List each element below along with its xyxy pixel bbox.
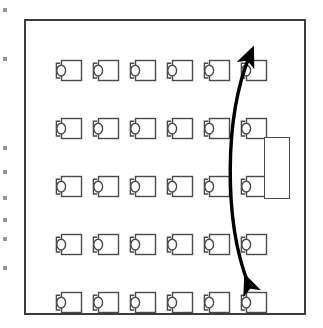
desk-chair-icon: [90, 173, 122, 201]
desk-chair-icon: [90, 115, 122, 143]
page-edge-fragment: [3, 146, 7, 150]
seating-grid: [26, 21, 304, 313]
chair-seat: [131, 65, 140, 76]
chair-seat: [168, 65, 177, 76]
chair-seat: [57, 181, 66, 192]
desk-chair-icon: [164, 57, 196, 85]
desk-chair-icon: [164, 173, 196, 201]
desk-chair-icon: [127, 289, 159, 317]
seat-row: [26, 57, 304, 85]
chair-seat: [205, 297, 214, 308]
desk-chair-icon: [238, 231, 270, 259]
chair-seat: [168, 123, 177, 134]
page-edge-fragment: [3, 237, 7, 241]
chair-seat: [131, 297, 140, 308]
seat-4-1[interactable]: [53, 231, 85, 259]
desk-chair-icon: [164, 289, 196, 317]
chair-seat: [94, 181, 103, 192]
seat-1-3[interactable]: [127, 57, 159, 85]
seat-4-3[interactable]: [127, 231, 159, 259]
seat-3-2[interactable]: [90, 173, 122, 201]
chair-seat: [94, 123, 103, 134]
desk-chair-icon: [127, 115, 159, 143]
room-outline: [24, 19, 306, 315]
seat-1-4[interactable]: [164, 57, 196, 85]
seat-4-5[interactable]: [201, 231, 233, 259]
seat-1-1[interactable]: [53, 57, 85, 85]
seat-5-5[interactable]: [201, 289, 233, 317]
seat-1-5[interactable]: [201, 57, 233, 85]
desk-chair-icon: [90, 57, 122, 85]
desk-chair-icon: [164, 231, 196, 259]
desk-chair-icon: [201, 115, 233, 143]
chair-seat: [242, 123, 251, 134]
desk-chair-icon: [127, 57, 159, 85]
seat-5-3[interactable]: [127, 289, 159, 317]
desk-chair-icon: [238, 289, 270, 317]
seat-2-2[interactable]: [90, 115, 122, 143]
desk-chair-icon: [164, 115, 196, 143]
desk-chair-icon: [53, 173, 85, 201]
lectern[interactable]: [264, 137, 290, 199]
desk-chair-icon: [201, 173, 233, 201]
chair-seat: [242, 65, 251, 76]
page-edge-fragment: [3, 57, 7, 61]
desk-chair-icon: [90, 231, 122, 259]
seat-row: [26, 289, 304, 317]
seat-2-1[interactable]: [53, 115, 85, 143]
page-edge-fragments: [0, 0, 16, 328]
page-edge-fragment: [3, 218, 7, 222]
chair-seat: [242, 297, 251, 308]
seat-5-6[interactable]: [238, 289, 270, 317]
seat-row: [26, 231, 304, 259]
chair-seat: [131, 181, 140, 192]
seat-row: [26, 173, 304, 201]
seat-row: [26, 115, 304, 143]
seat-3-1[interactable]: [53, 173, 85, 201]
chair-seat: [205, 123, 214, 134]
chair-seat: [205, 239, 214, 250]
desk-chair-icon: [201, 289, 233, 317]
chair-seat: [168, 181, 177, 192]
desk-chair-icon: [127, 173, 159, 201]
seat-3-5[interactable]: [201, 173, 233, 201]
page-edge-fragment: [3, 170, 7, 174]
diagram-canvas: [0, 0, 323, 328]
seat-2-3[interactable]: [127, 115, 159, 143]
seat-4-4[interactable]: [164, 231, 196, 259]
desk-chair-icon: [53, 115, 85, 143]
seat-5-1[interactable]: [53, 289, 85, 317]
chair-seat: [57, 65, 66, 76]
chair-seat: [131, 239, 140, 250]
seat-5-2[interactable]: [90, 289, 122, 317]
seat-1-6[interactable]: [238, 57, 270, 85]
chair-seat: [94, 239, 103, 250]
page-edge-fragment: [3, 266, 7, 270]
chair-seat: [57, 297, 66, 308]
seat-1-2[interactable]: [90, 57, 122, 85]
desk-chair-icon: [238, 57, 270, 85]
chair-seat: [57, 123, 66, 134]
desk-chair-icon: [90, 289, 122, 317]
chair-seat: [168, 297, 177, 308]
chair-seat: [131, 123, 140, 134]
desk-chair-icon: [53, 231, 85, 259]
chair-seat: [94, 65, 103, 76]
seat-5-4[interactable]: [164, 289, 196, 317]
seat-3-3[interactable]: [127, 173, 159, 201]
chair-seat: [57, 239, 66, 250]
page-edge-fragment: [3, 196, 7, 200]
chair-seat: [168, 239, 177, 250]
chair-seat: [242, 181, 251, 192]
seat-4-2[interactable]: [90, 231, 122, 259]
seat-2-5[interactable]: [201, 115, 233, 143]
desk-chair-icon: [53, 289, 85, 317]
seat-4-6[interactable]: [238, 231, 270, 259]
seat-2-4[interactable]: [164, 115, 196, 143]
chair-seat: [205, 65, 214, 76]
chair-seat: [205, 181, 214, 192]
desk-chair-icon: [127, 231, 159, 259]
seat-3-4[interactable]: [164, 173, 196, 201]
desk-chair-icon: [53, 57, 85, 85]
chair-seat: [94, 297, 103, 308]
